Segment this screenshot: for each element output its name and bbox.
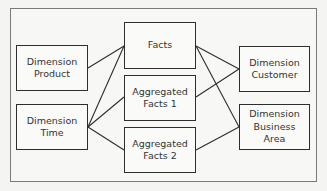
node-dimension-time: Dimension Time: [16, 104, 88, 150]
node-aggregated-facts-2: Aggregated Facts 2: [124, 127, 196, 173]
node-dimension-product: Dimension Product: [16, 45, 88, 91]
node-facts: Facts: [124, 22, 196, 69]
edge-facts-business-area: [196, 46, 239, 127]
edge-agg1-customer: [196, 69, 239, 97]
node-dimension-customer: Dimension Customer: [239, 46, 310, 92]
edge-time-agg2: [88, 127, 124, 150]
edge-time-facts: [88, 46, 124, 127]
edge-agg2-business-area: [196, 127, 239, 150]
node-aggregated-facts-1: Aggregated Facts 1: [124, 75, 196, 121]
node-dimension-business-area: Dimension Business Area: [239, 104, 310, 150]
edge-time-agg1: [88, 97, 124, 127]
